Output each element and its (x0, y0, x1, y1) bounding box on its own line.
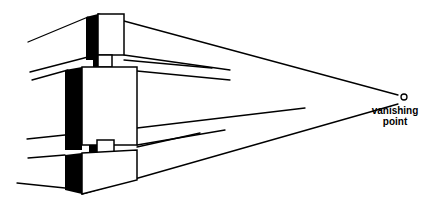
middle-block (65, 67, 137, 150)
label-line-1: vanishing (360, 105, 426, 116)
perspective-line (124, 55, 230, 70)
top-block (86, 14, 124, 67)
vanishing-point-marker (401, 94, 407, 100)
bottom-block (65, 150, 137, 194)
perspective-line (137, 71, 230, 80)
edge-line-left (28, 155, 65, 158)
vanishing-point-label: vanishing point (360, 105, 426, 127)
perspective-line (137, 133, 200, 147)
perspective-diagram (0, 0, 426, 206)
edge-line-left (17, 183, 65, 188)
perspective-line (137, 108, 305, 128)
label-line-2: point (360, 116, 426, 127)
perspective-line-top (98, 14, 398, 95)
edge-line-left (32, 70, 68, 80)
edge-line-left (28, 17, 88, 42)
edge-line-left (27, 135, 65, 139)
